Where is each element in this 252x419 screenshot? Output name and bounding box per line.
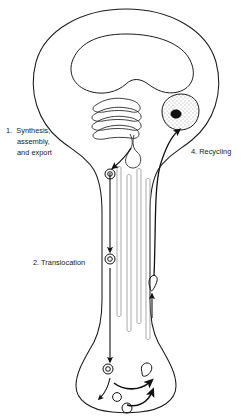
vesicle-terminal — [103, 364, 113, 374]
step1-line1: 1. Synthesis, — [6, 126, 50, 135]
label-step2: 2. Translocation — [33, 258, 85, 267]
step4-line1: 4. Recycling — [191, 147, 231, 156]
lysosome — [162, 94, 199, 130]
axon-terminal — [113, 363, 152, 413]
export-vesicle-arrow — [114, 148, 131, 167]
label-step1: 1. Synthesis, assembly, and export — [6, 126, 52, 157]
label-step4: 4. Recycling — [191, 147, 231, 156]
nucleus-outline — [71, 34, 193, 93]
transport-vesicles — [103, 169, 157, 374]
retrograde-transport-arrow — [152, 131, 178, 318]
step1-line3: and export — [17, 148, 52, 157]
neuron-trafficking-diagram: 1. Synthesis, assembly, and export 2. Tr… — [0, 0, 252, 419]
step1-line2: assembly, — [17, 137, 50, 146]
golgi-apparatus — [92, 98, 141, 168]
step2-line1: 2. Translocation — [33, 258, 85, 267]
soma-outline — [33, 9, 218, 413]
microtubule-bundle — [117, 167, 150, 340]
vesicle-midaxon — [105, 254, 115, 264]
